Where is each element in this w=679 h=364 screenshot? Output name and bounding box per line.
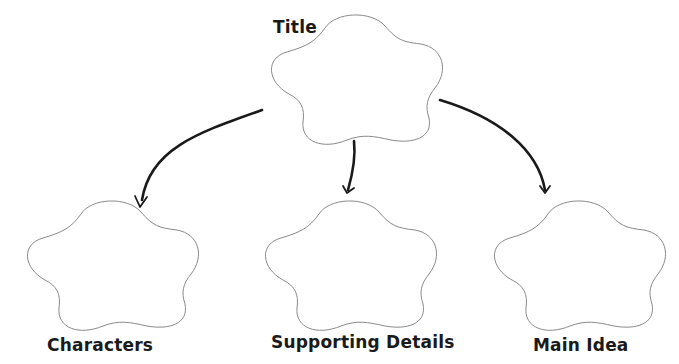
arrow-to-main-idea: [440, 100, 550, 193]
graphic-organizer-diagram: Title Characters Supporting Details Main…: [0, 0, 679, 364]
supporting-details-cloud: [265, 201, 436, 330]
arrow-to-characters: [135, 110, 262, 207]
supporting-details-label: Supporting Details: [271, 334, 455, 351]
diagram-canvas: [0, 0, 679, 364]
characters-label: Characters: [47, 337, 153, 354]
arrowhead-icon: [135, 196, 147, 207]
arrow-to-supporting-details: [343, 141, 355, 193]
characters-cloud: [27, 201, 198, 330]
main-idea-cloud: [494, 201, 665, 330]
title-label: Title: [273, 19, 317, 36]
main-idea-label: Main Idea: [533, 337, 629, 354]
